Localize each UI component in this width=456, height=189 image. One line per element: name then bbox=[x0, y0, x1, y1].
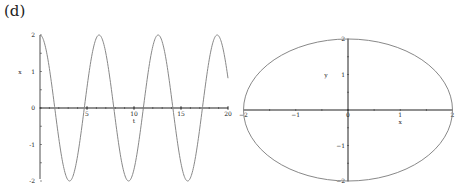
y-tick-label: −1 bbox=[336, 142, 345, 149]
x-tick-label: −1 bbox=[291, 111, 300, 118]
x-tick-label: 20 bbox=[224, 110, 232, 117]
y-tick-label: -2 bbox=[29, 177, 35, 184]
y-tick-label: 1 bbox=[31, 68, 35, 75]
x-axis-label: t bbox=[133, 117, 136, 124]
x-tick-label: 15 bbox=[177, 110, 185, 117]
y-axis-label: x bbox=[18, 68, 22, 75]
chart-area: 5101520210-1-2tx−2−101221−1−2xy bbox=[0, 0, 456, 189]
y-tick-label: 2 bbox=[31, 31, 35, 38]
y-tick-label: -1 bbox=[29, 141, 35, 148]
y-tick-label: 1 bbox=[341, 71, 345, 78]
x-axis-label: x bbox=[399, 118, 403, 125]
x-tick-label: 0 bbox=[346, 111, 350, 118]
y-tick-label: 0 bbox=[31, 104, 35, 111]
y-tick-label: 2 bbox=[341, 35, 345, 42]
x-tick-label: 10 bbox=[130, 110, 138, 117]
x-tick-label: 5 bbox=[85, 110, 89, 117]
x-tick-label: 1 bbox=[398, 111, 402, 118]
y-axis-label: y bbox=[323, 71, 328, 79]
